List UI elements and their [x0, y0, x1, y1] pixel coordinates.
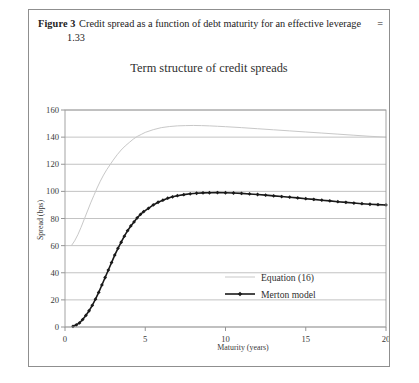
series-marker-1 — [195, 191, 199, 195]
series-marker-1 — [272, 194, 276, 198]
x-tick-label: 0 — [63, 334, 67, 344]
legend-marker-1 — [238, 292, 243, 297]
y-axis-tick-labels: 020406080100120140160 — [46, 105, 59, 332]
y-tick-label: 100 — [46, 186, 59, 196]
x-tick-label: 15 — [301, 334, 310, 344]
series-marker-1 — [240, 192, 244, 196]
chart-legend: Equation (16)Merton model — [225, 272, 316, 300]
y-tick-label: 140 — [46, 132, 59, 142]
series-marker-1 — [296, 196, 300, 200]
y-tick-label: 120 — [46, 159, 59, 169]
y-tick-label: 40 — [50, 268, 59, 278]
y-tick-label: 160 — [46, 105, 59, 115]
series-line-1 — [73, 193, 386, 327]
series-marker-1 — [344, 200, 348, 204]
series-marker-1 — [368, 202, 372, 206]
data-series — [71, 125, 388, 328]
y-tick-label: 80 — [50, 214, 59, 224]
series-marker-1 — [264, 193, 268, 197]
figure-number-label: Figure 3 — [38, 18, 76, 29]
series-marker-1 — [171, 195, 175, 199]
credit-spread-chart: Term structure of credit spreads 0204060… — [29, 50, 389, 366]
y-tick-label: 20 — [50, 295, 59, 305]
gridlines — [61, 110, 386, 331]
series-marker-1 — [320, 198, 324, 202]
series-marker-1 — [304, 197, 308, 201]
chart-title-group: Term structure of credit spreads — [130, 61, 288, 75]
caption-text-line2: 1.33 — [38, 31, 384, 45]
series-marker-1 — [288, 195, 292, 199]
y-axis-title: Spread (bps) — [36, 200, 45, 240]
legend-label-1: Merton model — [261, 289, 316, 300]
chart-title: Term structure of credit spreads — [130, 61, 288, 75]
series-marker-1 — [256, 193, 260, 197]
caption-equals-symbol: = — [377, 17, 384, 31]
x-axis-title: Maturity (years) — [217, 343, 269, 352]
series-marker-1 — [376, 203, 380, 207]
series-marker-1 — [352, 201, 356, 205]
figure-frame: = Figure 3 Credit spread as a function o… — [28, 9, 390, 367]
series-marker-1 — [280, 195, 284, 199]
x-tick-label: 5 — [143, 334, 147, 344]
chart-svg: Term structure of credit spreads 0204060… — [29, 50, 389, 366]
series-marker-1 — [312, 197, 316, 201]
y-tick-label: 0 — [55, 322, 59, 332]
y-tick-label: 60 — [50, 241, 59, 251]
series-marker-1 — [336, 200, 340, 204]
series-line-0 — [71, 125, 386, 245]
series-marker-1 — [182, 193, 186, 197]
caption-text-line1: Credit spread as a function of debt matu… — [78, 18, 361, 29]
x-tick-label: 20 — [382, 334, 389, 344]
series-marker-1 — [175, 194, 179, 198]
figure-caption: = Figure 3 Credit spread as a function o… — [38, 17, 384, 44]
series-marker-1 — [248, 192, 252, 196]
series-marker-1 — [328, 199, 332, 203]
legend-label-0: Equation (16) — [261, 272, 314, 284]
series-marker-1 — [188, 192, 192, 196]
series-marker-1 — [360, 202, 364, 206]
